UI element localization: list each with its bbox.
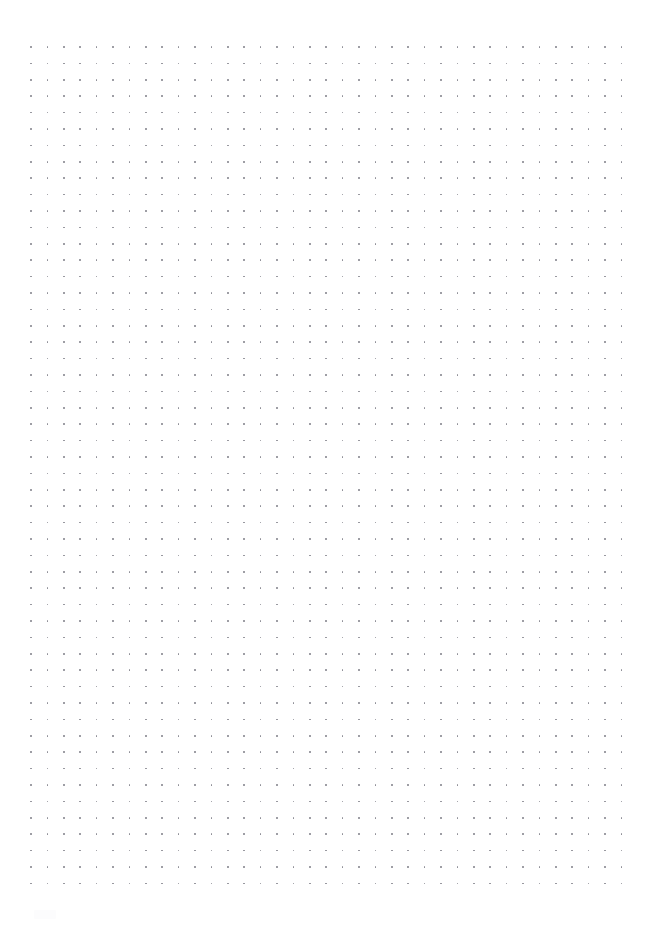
grid-dot bbox=[194, 702, 196, 704]
grid-dot bbox=[178, 95, 180, 97]
grid-dot bbox=[342, 637, 344, 639]
grid-dot bbox=[457, 210, 459, 212]
grid-dot bbox=[391, 702, 393, 704]
grid-dot bbox=[539, 325, 541, 327]
grid-dot bbox=[555, 587, 557, 589]
grid-dot bbox=[325, 128, 327, 130]
grid-dot bbox=[473, 128, 475, 130]
grid-dot bbox=[112, 833, 114, 835]
grid-dot bbox=[145, 522, 147, 524]
grid-dot bbox=[145, 145, 147, 147]
grid-dot bbox=[161, 505, 163, 507]
grid-dot bbox=[539, 407, 541, 409]
grid-dot bbox=[227, 866, 229, 868]
grid-dot bbox=[96, 309, 98, 311]
grid-dot bbox=[440, 735, 442, 737]
grid-dot bbox=[47, 473, 49, 475]
dot-grid-canvas[interactable] bbox=[0, 0, 653, 931]
grid-dot bbox=[358, 883, 360, 885]
grid-dot bbox=[424, 489, 426, 491]
grid-dot bbox=[325, 735, 327, 737]
grid-dot bbox=[243, 522, 245, 524]
grid-dot bbox=[457, 883, 459, 885]
grid-dot bbox=[47, 571, 49, 573]
grid-dot bbox=[522, 440, 524, 442]
grid-dot bbox=[260, 751, 262, 753]
grid-dot bbox=[30, 522, 32, 524]
grid-dot bbox=[407, 669, 409, 671]
grid-dot bbox=[161, 128, 163, 130]
grid-dot bbox=[588, 341, 590, 343]
grid-dot bbox=[129, 259, 131, 261]
grid-dot bbox=[604, 79, 606, 81]
grid-dot bbox=[588, 374, 590, 376]
grid-dot bbox=[424, 522, 426, 524]
grid-dot bbox=[457, 276, 459, 278]
grid-dot bbox=[309, 587, 311, 589]
grid-dot bbox=[47, 719, 49, 721]
grid-dot bbox=[424, 79, 426, 81]
grid-dot bbox=[506, 473, 508, 475]
grid-dot bbox=[358, 784, 360, 786]
grid-dot bbox=[260, 440, 262, 442]
grid-dot bbox=[440, 473, 442, 475]
grid-dot bbox=[539, 128, 541, 130]
grid-dot bbox=[129, 719, 131, 721]
grid-dot bbox=[342, 801, 344, 803]
grid-dot bbox=[309, 276, 311, 278]
grid-dot bbox=[63, 440, 65, 442]
grid-dot bbox=[473, 587, 475, 589]
grid-dot bbox=[522, 604, 524, 606]
grid-dot bbox=[375, 292, 377, 294]
grid-dot bbox=[129, 505, 131, 507]
grid-dot bbox=[243, 751, 245, 753]
grid-dot bbox=[145, 112, 147, 114]
grid-dot bbox=[342, 145, 344, 147]
grid-dot bbox=[555, 128, 557, 130]
grid-dot bbox=[96, 850, 98, 852]
grid-dot bbox=[506, 571, 508, 573]
grid-dot bbox=[194, 866, 196, 868]
grid-dot bbox=[47, 555, 49, 557]
grid-dot bbox=[506, 637, 508, 639]
grid-dot bbox=[407, 473, 409, 475]
grid-dot bbox=[293, 194, 295, 196]
grid-dot bbox=[30, 604, 32, 606]
grid-dot bbox=[407, 833, 409, 835]
grid-dot bbox=[375, 719, 377, 721]
grid-dot bbox=[473, 63, 475, 65]
grid-dot bbox=[604, 587, 606, 589]
grid-dot bbox=[145, 46, 147, 48]
grid-dot bbox=[424, 95, 426, 97]
grid-dot bbox=[621, 653, 623, 655]
grid-dot bbox=[309, 505, 311, 507]
grid-dot bbox=[571, 505, 573, 507]
grid-dot bbox=[342, 161, 344, 163]
grid-dot bbox=[260, 866, 262, 868]
grid-dot bbox=[47, 653, 49, 655]
grid-dot bbox=[293, 538, 295, 540]
grid-dot bbox=[473, 227, 475, 229]
grid-dot bbox=[194, 46, 196, 48]
grid-dot bbox=[473, 391, 475, 393]
grid-dot bbox=[489, 473, 491, 475]
grid-dot bbox=[276, 686, 278, 688]
grid-dot bbox=[112, 850, 114, 852]
grid-dot bbox=[506, 63, 508, 65]
grid-dot bbox=[79, 46, 81, 48]
grid-dot bbox=[489, 210, 491, 212]
grid-dot bbox=[309, 751, 311, 753]
grid-dot bbox=[211, 473, 213, 475]
grid-dot bbox=[325, 391, 327, 393]
grid-dot bbox=[145, 751, 147, 753]
grid-dot bbox=[309, 571, 311, 573]
grid-dot bbox=[112, 325, 114, 327]
grid-dot bbox=[30, 735, 32, 737]
grid-dot bbox=[243, 719, 245, 721]
grid-dot bbox=[407, 571, 409, 573]
grid-dot bbox=[342, 276, 344, 278]
grid-dot bbox=[178, 669, 180, 671]
grid-dot bbox=[325, 883, 327, 885]
grid-dot bbox=[473, 440, 475, 442]
grid-dot bbox=[407, 46, 409, 48]
